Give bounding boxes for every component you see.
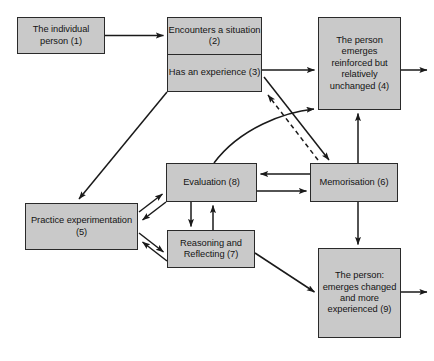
diagram-canvas: The individual person (1) Encounters a s… xyxy=(0,0,434,361)
node-has-an-experience[interactable]: Has an experience (3) xyxy=(168,54,261,91)
node-label-1: The individual person (1) xyxy=(20,24,102,47)
node-memorisation[interactable]: Memorisation (6) xyxy=(310,163,398,202)
node-label-6: Memorisation (6) xyxy=(320,177,389,188)
edge-5-to-7 xyxy=(139,233,164,252)
node-label-2: Encounters a situation (2) xyxy=(168,25,261,48)
node-label-4: The person emerges reinforced but relati… xyxy=(321,35,398,92)
node-label-7: Reasoning and Reflecting (7) xyxy=(170,238,252,261)
node-label-9: The person: emerges changed and more exp… xyxy=(321,270,398,316)
edge-7-to-9 xyxy=(255,253,315,292)
node-label-3: Has an experience (3) xyxy=(169,67,260,78)
edge-7-to-5 xyxy=(143,242,168,261)
node-practice-experimentation[interactable]: Practice experimentation (5) xyxy=(25,203,138,250)
node-group-situation-experience: Encounters a situation (2) Has an experi… xyxy=(167,17,262,92)
figure-caption xyxy=(0,352,434,361)
edge-6-to-3 xyxy=(268,95,318,160)
node-label-5: Practice experimentation (5) xyxy=(28,215,135,238)
node-label-8: Evaluation (8) xyxy=(183,177,240,188)
edge-5-to-8 xyxy=(139,194,163,212)
node-reasoning-reflecting[interactable]: Reasoning and Reflecting (7) xyxy=(167,230,255,268)
node-encounters-situation[interactable]: Encounters a situation (2) xyxy=(168,18,261,54)
node-emerges-unchanged[interactable]: The person emerges reinforced but relati… xyxy=(318,17,401,110)
edge-8-to-5 xyxy=(143,202,167,220)
edge-8-to-4 xyxy=(214,109,314,163)
node-emerges-changed[interactable]: The person: emerges changed and more exp… xyxy=(318,248,401,338)
node-individual-person[interactable]: The individual person (1) xyxy=(17,17,105,54)
node-evaluation[interactable]: Evaluation (8) xyxy=(166,163,257,202)
edge-3-to-5 xyxy=(79,92,167,199)
